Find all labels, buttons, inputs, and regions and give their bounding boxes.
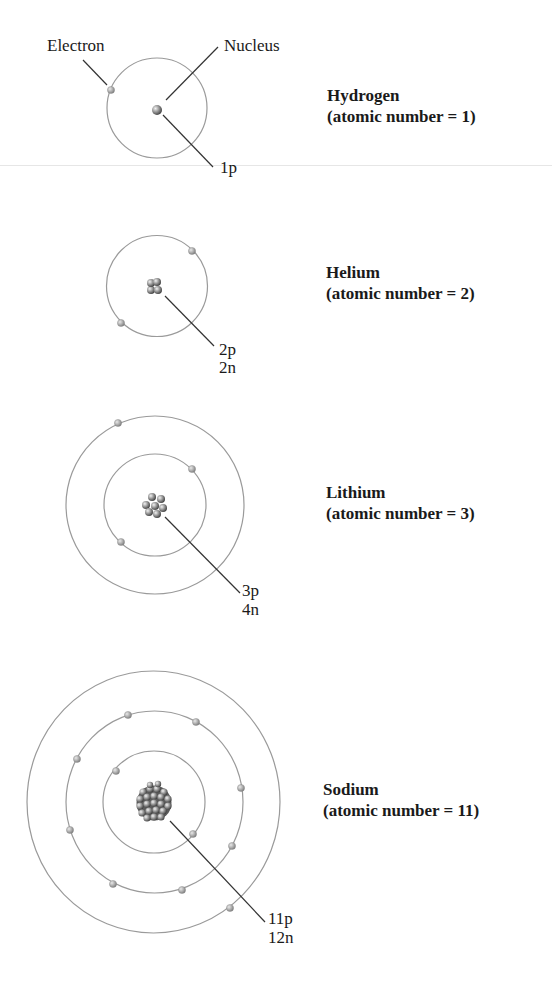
nucleus-icon: [136, 781, 171, 822]
nucleus-icon: [147, 278, 162, 294]
electron-icon: [114, 419, 121, 426]
helium-atom: [107, 236, 215, 347]
nucleus-icon: [142, 493, 167, 518]
electron-icon: [117, 319, 124, 326]
atomic-number-text: (atomic number = 3): [326, 503, 475, 524]
electron-icon: [188, 465, 195, 472]
lithium-neutron-count: 4n: [242, 601, 259, 619]
nucleus-callout-label: Nucleus: [224, 37, 280, 55]
hydrogen-atom: [83, 47, 218, 167]
electron-icon: [117, 538, 124, 545]
electron-icon: [192, 718, 199, 725]
electron-icon: [107, 86, 114, 93]
hydrogen-proton-count: 1p: [220, 159, 237, 177]
hydrogen-label: Hydrogen (atomic number = 1): [327, 85, 476, 127]
atomic-number-text: (atomic number = 1): [327, 106, 476, 127]
helium-neutron-count: 2n: [219, 359, 236, 377]
electron-icon: [124, 711, 131, 718]
sodium-label: Sodium (atomic number = 11): [323, 779, 479, 821]
nucleus-count-leader-line: [165, 296, 214, 346]
element-name: Sodium: [323, 779, 479, 800]
electron-icon: [112, 767, 119, 774]
element-name: Hydrogen: [327, 85, 476, 106]
nucleus-count-leader-line: [170, 821, 265, 922]
electron-leader-line: [83, 60, 107, 85]
nucleus-leader-line: [166, 47, 218, 100]
electron-icon: [226, 904, 233, 911]
helium-label: Helium (atomic number = 2): [326, 262, 475, 304]
electron-icon: [178, 886, 185, 893]
electron-icon: [188, 247, 195, 254]
lithium-atom: [66, 416, 244, 594]
element-name: Helium: [326, 262, 475, 283]
electron-icon: [189, 830, 196, 837]
electron-icon: [73, 755, 80, 762]
electron-icon: [109, 880, 116, 887]
lithium-proton-count: 3p: [242, 582, 259, 600]
electron-icon: [237, 784, 244, 791]
element-name: Lithium: [326, 482, 475, 503]
sodium-atom: [27, 671, 280, 933]
helium-proton-count: 2p: [219, 341, 236, 359]
lithium-label: Lithium (atomic number = 3): [326, 482, 475, 524]
electron-callout-label: Electron: [47, 37, 105, 55]
sodium-neutron-count: 12n: [268, 929, 294, 947]
nucleus-icon: [152, 105, 162, 115]
proton-count-leader-line: [163, 115, 213, 167]
atomic-number-text: (atomic number = 11): [323, 800, 479, 821]
atomic-number-text: (atomic number = 2): [326, 283, 475, 304]
electron-icon: [66, 826, 73, 833]
electron-icon: [228, 842, 235, 849]
sodium-proton-count: 11p: [268, 910, 293, 928]
